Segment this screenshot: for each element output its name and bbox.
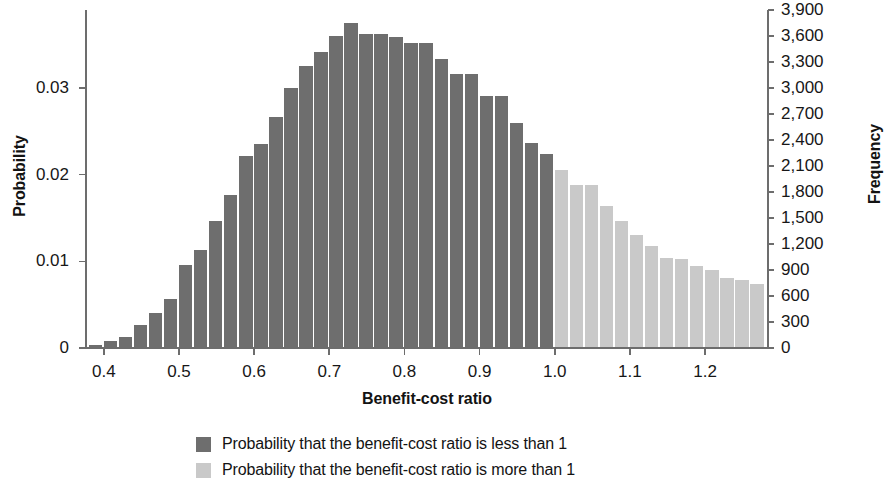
right-axis-tick-label: 3,000 xyxy=(781,78,861,98)
bottom-axis-tick xyxy=(479,349,481,355)
left-axis-tick-label: 0.01 xyxy=(0,251,69,271)
histogram-bar xyxy=(480,96,493,348)
histogram-bar xyxy=(344,23,357,348)
right-axis-tick-label: 3,900 xyxy=(781,0,861,20)
histogram-bar xyxy=(450,74,463,348)
legend-label-above-one: Probability that the benefit-cost ratio … xyxy=(222,461,575,479)
right-axis-tick-label: 900 xyxy=(781,260,861,280)
right-axis-tick-label: 1,200 xyxy=(781,234,861,254)
right-axis-tick-label: 3,600 xyxy=(781,26,861,46)
histogram-bar xyxy=(179,265,192,348)
histogram-bar xyxy=(254,144,267,348)
left-axis-tick-label: 0.03 xyxy=(0,78,69,98)
histogram-bar xyxy=(510,123,523,348)
histogram-bar xyxy=(239,156,252,348)
right-axis-tick-label: 600 xyxy=(781,286,861,306)
histogram-bar xyxy=(119,337,132,348)
right-axis-tick-label: 0 xyxy=(781,338,861,358)
bottom-axis-line xyxy=(85,347,769,349)
histogram-bar xyxy=(690,266,703,348)
right-axis-tick-label: 2,400 xyxy=(781,130,861,150)
right-axis-tick xyxy=(768,113,774,115)
left-axis-tick xyxy=(79,174,85,176)
histogram-bar xyxy=(419,43,432,348)
histogram-bar xyxy=(465,74,478,348)
histogram-bar xyxy=(284,88,297,348)
bottom-axis-tick-label: 0.8 xyxy=(393,362,417,382)
right-axis-tick-label: 300 xyxy=(781,312,861,332)
right-axis-tick-label: 2,100 xyxy=(781,156,861,176)
right-axis-tick xyxy=(768,243,774,245)
histogram-bar xyxy=(585,185,598,348)
bottom-axis-tick xyxy=(253,349,255,355)
histogram-bar xyxy=(314,52,327,348)
right-axis-tick xyxy=(768,217,774,219)
histogram-bar xyxy=(570,185,583,348)
bottom-axis-tick xyxy=(328,349,330,355)
bottom-axis-tick-label: 0.4 xyxy=(92,362,116,382)
left-axis-tick xyxy=(79,87,85,89)
y-axis-title-frequency: Frequency xyxy=(866,84,884,244)
right-axis-tick xyxy=(768,35,774,37)
bottom-axis-tick-label: 0.9 xyxy=(468,362,492,382)
histogram-bar xyxy=(224,195,237,348)
right-axis-tick-label: 3,300 xyxy=(781,52,861,72)
histogram-bar xyxy=(164,299,177,348)
right-axis-tick xyxy=(768,321,774,323)
histogram-bar xyxy=(600,206,613,348)
right-axis-tick xyxy=(768,139,774,141)
bottom-axis-tick-label: 1.2 xyxy=(693,362,717,382)
histogram-bar xyxy=(555,170,568,348)
right-axis-tick xyxy=(768,295,774,297)
histogram-bar xyxy=(540,154,553,348)
bottom-axis-tick-label: 1.0 xyxy=(543,362,567,382)
histogram-bar xyxy=(750,284,763,348)
right-axis-tick xyxy=(768,347,774,349)
histogram-bar xyxy=(299,66,312,348)
bottom-axis-tick-label: 1.1 xyxy=(618,362,642,382)
right-axis-tick xyxy=(768,87,774,89)
histogram-bar xyxy=(209,221,222,348)
histogram-bar xyxy=(389,37,402,348)
left-axis-tick xyxy=(79,347,85,349)
bottom-axis-tick-label: 0.7 xyxy=(317,362,341,382)
histogram-bar xyxy=(194,250,207,348)
legend-label-below-one: Probability that the benefit-cost ratio … xyxy=(222,435,567,453)
right-axis-tick xyxy=(768,165,774,167)
histogram-bar xyxy=(525,143,538,348)
legend-item-above-one: Probability that the benefit-cost ratio … xyxy=(196,457,716,483)
histogram-bar xyxy=(495,96,508,348)
right-axis-tick-label: 1,800 xyxy=(781,182,861,202)
histogram-figure: Probability Frequency Benefit-cost ratio… xyxy=(0,0,889,491)
legend-swatch-icon-above-one xyxy=(196,463,211,478)
left-axis-tick xyxy=(79,261,85,263)
left-axis-tick-label: 0.02 xyxy=(0,165,69,185)
x-axis-title-benefit-cost-ratio: Benefit-cost ratio xyxy=(85,390,769,408)
bottom-axis-tick xyxy=(404,349,406,355)
legend-item-below-one: Probability that the benefit-cost ratio … xyxy=(196,431,716,457)
bottom-axis-tick xyxy=(103,349,105,355)
histogram-bars xyxy=(85,10,769,348)
histogram-bar xyxy=(735,280,748,348)
right-axis-tick-label: 1,500 xyxy=(781,208,861,228)
legend-swatch-icon-below-one xyxy=(196,437,211,452)
histogram-bar xyxy=(705,270,718,348)
bottom-axis-tick xyxy=(554,349,556,355)
chart-legend: Probability that the benefit-cost ratio … xyxy=(196,431,716,483)
right-axis-tick xyxy=(768,9,774,11)
right-axis-tick-label: 2,700 xyxy=(781,104,861,124)
histogram-bar xyxy=(404,43,417,348)
histogram-bar xyxy=(660,258,673,348)
plot-area: 00.010.020.03 03006009001,2001,5001,8002… xyxy=(85,10,769,348)
left-axis-tick-label: 0 xyxy=(0,338,69,358)
histogram-bar xyxy=(149,313,162,348)
histogram-bar xyxy=(329,36,342,348)
histogram-bar xyxy=(269,117,282,348)
histogram-bar xyxy=(615,221,628,348)
bottom-axis-tick xyxy=(629,349,631,355)
histogram-bar xyxy=(645,246,658,348)
bottom-axis-tick xyxy=(178,349,180,355)
histogram-bar xyxy=(630,235,643,348)
right-axis-tick xyxy=(768,269,774,271)
histogram-bar xyxy=(374,34,387,348)
